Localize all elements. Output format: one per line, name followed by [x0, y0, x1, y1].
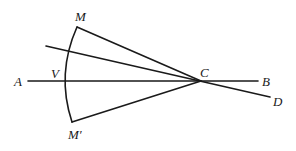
label-V: V — [51, 66, 61, 81]
arc-MVM-prime — [65, 27, 77, 122]
label-C: C — [200, 65, 209, 80]
label-D: D — [272, 94, 283, 109]
label-M: M — [74, 9, 87, 24]
line-CM-prime — [72, 81, 201, 122]
geometry-diagram: M M′ A V C B D — [0, 0, 296, 151]
label-B: B — [262, 74, 270, 89]
label-M-prime: M′ — [67, 127, 82, 142]
line-CD — [46, 46, 270, 97]
label-A: A — [13, 74, 22, 89]
line-CM — [77, 27, 201, 81]
